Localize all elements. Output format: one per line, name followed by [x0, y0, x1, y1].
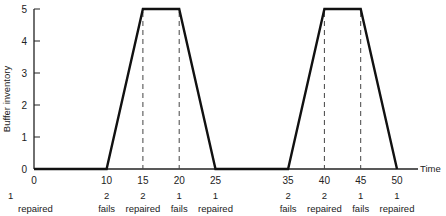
event-type-label: repaired — [307, 203, 342, 214]
y-axis-label: Buffer inventory — [1, 66, 12, 133]
event-count-label: 1 — [213, 190, 218, 201]
y-ticks: 012345 — [21, 4, 40, 175]
event-type-label: fails — [98, 203, 115, 214]
x-ticks: 01015202535404550 — [31, 175, 403, 186]
event-count-label: 1 — [358, 190, 363, 201]
y-tick-label: 3 — [21, 68, 27, 79]
event-annotations: 1repaired2fails2repaired1fails1repaired2… — [8, 190, 414, 214]
y-tick-label: 1 — [21, 132, 27, 143]
event-type-label: repaired — [198, 203, 233, 214]
series-line-buffer-inventory — [34, 9, 397, 169]
x-tick-label: 15 — [137, 175, 149, 186]
x-tick-label: 20 — [174, 175, 186, 186]
x-tick-label: 10 — [101, 175, 113, 186]
event-type-label: repaired — [18, 203, 53, 214]
x-tick-label: 35 — [283, 175, 295, 186]
dashed-guides — [143, 12, 361, 169]
event-type-label: repaired — [380, 203, 415, 214]
y-tick-label: 2 — [21, 100, 27, 111]
event-count-label: 1 — [177, 190, 182, 201]
event-type-label: fails — [352, 203, 369, 214]
x-tick-label: 25 — [210, 175, 222, 186]
event-type-label: repaired — [125, 203, 160, 214]
event-type-label: fails — [280, 203, 297, 214]
y-tick-label: 5 — [21, 4, 27, 15]
event-count-label: 2 — [140, 190, 145, 201]
event-count-label: 2 — [285, 190, 290, 201]
x-axis-label: Time — [420, 163, 441, 174]
event-count-label: 2 — [322, 190, 327, 201]
event-count-label: 2 — [104, 190, 109, 201]
x-tick-label: 45 — [355, 175, 367, 186]
y-tick-label: 4 — [21, 36, 27, 47]
event-count-label: 1 — [394, 190, 399, 201]
buffer-inventory-chart: 012345 01015202535404550 1repaired2fails… — [0, 0, 446, 216]
y-tick-label: 0 — [21, 164, 27, 175]
x-tick-label: 40 — [319, 175, 331, 186]
x-tick-label: 50 — [391, 175, 403, 186]
event-count-label: 1 — [8, 190, 13, 201]
x-tick-label: 0 — [31, 175, 37, 186]
event-type-label: fails — [171, 203, 188, 214]
